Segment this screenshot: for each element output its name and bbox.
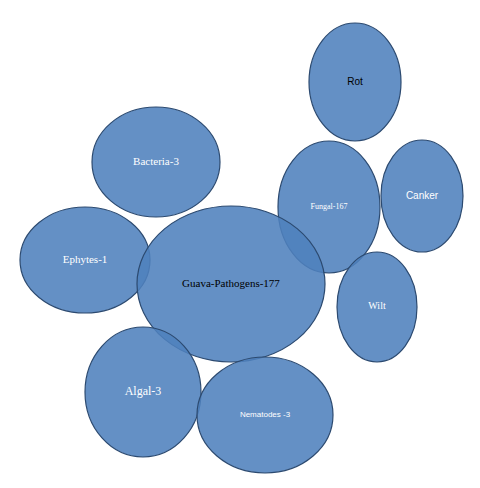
guava-pathogens-bubble-diagram: Rot Bacteria-3 Fungal-167 Canker Ephytes… bbox=[0, 0, 480, 488]
label-nematodes: Nematodes -3 bbox=[240, 410, 291, 419]
node-rot: Rot bbox=[309, 23, 401, 141]
node-canker: Canker bbox=[381, 140, 463, 252]
label-ephytes: Ephytes-1 bbox=[63, 253, 108, 265]
node-algal: Algal-3 bbox=[85, 327, 201, 457]
node-ephytes: Ephytes-1 bbox=[20, 207, 150, 313]
label-guava-pathogens: Guava-Pathogens-177 bbox=[182, 277, 280, 289]
node-nematodes: Nematodes -3 bbox=[197, 357, 333, 473]
label-rot: Rot bbox=[347, 76, 363, 87]
label-bacteria: Bacteria-3 bbox=[133, 155, 179, 167]
label-wilt: Wilt bbox=[368, 300, 386, 311]
label-fungal: Fungal-167 bbox=[311, 202, 348, 211]
label-algal: Algal-3 bbox=[125, 384, 162, 398]
node-bacteria: Bacteria-3 bbox=[92, 107, 220, 217]
node-wilt: Wilt bbox=[337, 252, 417, 362]
label-canker: Canker bbox=[406, 190, 439, 201]
